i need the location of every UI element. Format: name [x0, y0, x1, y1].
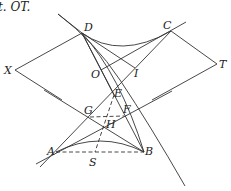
- label-i: I: [133, 67, 139, 80]
- label-s: S: [89, 156, 97, 169]
- label-e: E: [113, 87, 122, 100]
- label-a: A: [46, 145, 55, 158]
- label-g: G: [84, 104, 93, 117]
- diagram-canvas: t. OT. D C X T O I E G F H A B S: [0, 0, 231, 191]
- label-f: F: [122, 103, 131, 116]
- line-x-lower: [15, 70, 62, 100]
- label-t: T: [219, 58, 228, 71]
- lower-arc-ab: [56, 141, 144, 152]
- label-c: C: [163, 19, 172, 32]
- line-t-lower: [152, 64, 217, 100]
- label-d: D: [83, 21, 93, 34]
- label-o: O: [91, 68, 100, 81]
- line-x-d: [15, 33, 82, 70]
- label-h: H: [105, 118, 116, 131]
- long-curve: [58, 14, 185, 186]
- geometry-diagram: t. OT. D C X T O I E G F H A B S: [0, 0, 231, 191]
- label-x: X: [3, 64, 13, 77]
- line-g-b: [44, 90, 144, 152]
- line-c-t: [171, 31, 217, 64]
- caption-fragment: t. OT.: [0, 0, 30, 14]
- label-b: B: [144, 145, 153, 158]
